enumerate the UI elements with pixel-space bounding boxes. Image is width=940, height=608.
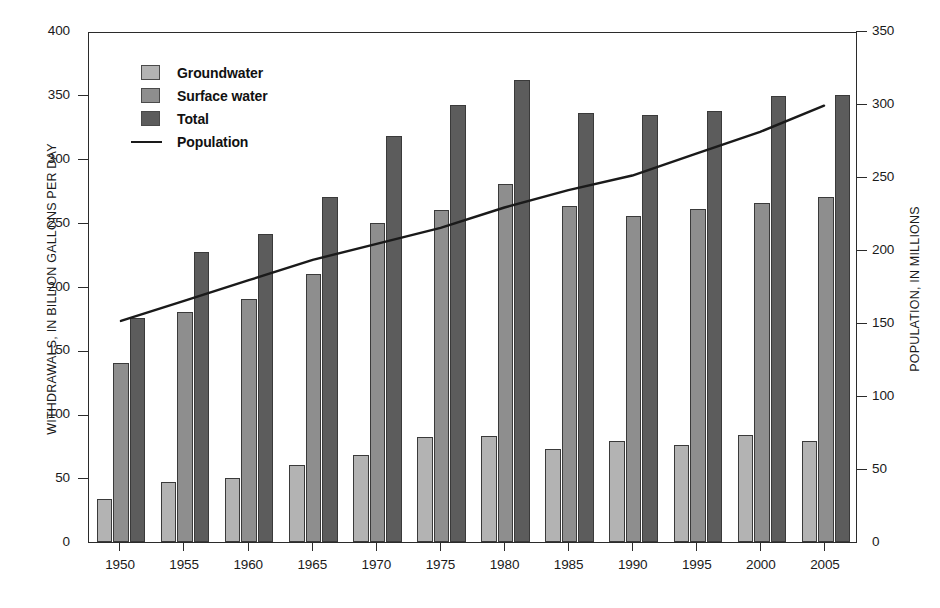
legend-item-pop[interactable]: Population [141, 131, 268, 152]
y-axis-left-tick-label: 200 [10, 279, 70, 294]
x-axis-tick-label: 1995 [662, 557, 732, 572]
legend-item-label: Surface water [177, 88, 268, 104]
y-axis-left-tick-label: 50 [10, 470, 70, 485]
x-axis-tick [312, 543, 313, 551]
x-axis-tick-label: 1990 [598, 557, 668, 572]
y-axis-left-tick-label: 300 [10, 151, 70, 166]
x-axis-tick-label: 1970 [341, 557, 411, 572]
x-axis-tick-label: 2005 [790, 557, 860, 572]
x-axis-tick-label: 1975 [405, 557, 475, 572]
x-axis-tick [248, 543, 249, 551]
y-axis-right-tick-label: 50 [872, 461, 932, 476]
x-axis-tick [440, 543, 441, 551]
x-axis-tick-label: 1960 [213, 557, 283, 572]
y-axis-right-tick-label: 350 [872, 23, 932, 38]
y-axis-left-tick-label: 400 [10, 23, 70, 38]
x-axis-tick-label: 2000 [726, 557, 796, 572]
x-axis-tick-label: 1955 [149, 557, 219, 572]
y-axis-right-tick [856, 250, 867, 251]
chart-legend: GroundwaterSurface waterTotalPopulation [141, 62, 268, 154]
y-axis-right-tick [856, 323, 867, 324]
legend-swatch-icon [141, 111, 160, 126]
y-axis-left-tick-label: 0 [10, 534, 70, 549]
x-axis-tick [696, 543, 697, 551]
x-axis-tick [632, 543, 633, 551]
x-axis-tick [568, 543, 569, 551]
x-axis-tick-label: 1965 [277, 557, 347, 572]
y-axis-right-tick-label: 0 [872, 534, 932, 549]
legend-swatch-icon [141, 88, 160, 103]
y-axis-right-tick [856, 104, 867, 105]
y-axis-right-tick-label: 200 [872, 242, 932, 257]
y-axis-right-tick-label: 150 [872, 315, 932, 330]
x-axis-tick-label: 1980 [470, 557, 540, 572]
y-axis-right-tick-label: 300 [872, 96, 932, 111]
y-axis-left-tick-label: 150 [10, 342, 70, 357]
y-axis-right-tick [856, 177, 867, 178]
y-axis-right-tick [856, 469, 867, 470]
legend-item-gw[interactable]: Groundwater [141, 62, 268, 83]
y-axis-right-tick-label: 250 [872, 169, 932, 184]
y-axis-left-tick-label: 350 [10, 87, 70, 102]
y-axis-left-tick-label: 250 [10, 215, 70, 230]
y-axis-right-tick [856, 31, 867, 32]
x-axis-tick [376, 543, 377, 551]
x-axis-tick [183, 543, 184, 551]
legend-swatch-icon [141, 65, 160, 80]
x-axis-tick [760, 543, 761, 551]
x-axis-tick-label: 1950 [85, 557, 155, 572]
x-axis-tick [119, 543, 120, 551]
x-axis-tick-label: 1985 [534, 557, 604, 572]
x-axis-tick [504, 543, 505, 551]
chart-page: WITHDRAWALS, IN BILLION GALLONS PER DAY … [0, 0, 940, 608]
y-axis-left-tick-label: 100 [10, 406, 70, 421]
y-axis-right-tick [856, 396, 867, 397]
y-axis-right-title: POPULATION, IN MILLIONS [908, 79, 922, 499]
legend-item-tot[interactable]: Total [141, 108, 268, 129]
legend-item-label: Total [177, 111, 209, 127]
legend-item-sw[interactable]: Surface water [141, 85, 268, 106]
legend-item-label: Population [177, 134, 248, 150]
legend-line-icon [141, 134, 160, 149]
y-axis-right-tick-label: 100 [872, 388, 932, 403]
legend-item-label: Groundwater [177, 65, 263, 81]
x-axis-tick [824, 543, 825, 551]
